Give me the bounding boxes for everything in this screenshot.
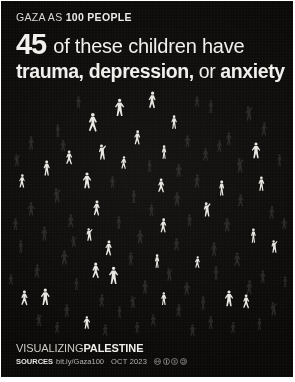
headline-conditions: trauma, depression, (16, 60, 194, 82)
pictogram-figure-highlighted (19, 289, 30, 308)
pictogram-figure-highlighted (103, 239, 114, 258)
pictogram-figure-dim (115, 305, 124, 320)
pictogram-figure-dim (192, 173, 202, 190)
pictogram-figure-dim (281, 275, 289, 289)
pictogram-figure-dim (280, 217, 288, 231)
pictogram-figure-dim (201, 147, 211, 163)
pictogram-figure-dim (53, 321, 61, 335)
pictogram-figure-dim (34, 313, 43, 328)
pictogram-figure-dim (12, 153, 21, 168)
pictogram-figure-highlighted (269, 239, 279, 255)
pictogram-figure-highlighted (91, 199, 102, 218)
pictogram-figure-highlighted (82, 315, 92, 331)
pictogram-figure-dim (114, 215, 124, 231)
pictogram-figure-highlighted (119, 155, 129, 171)
pictogram-figure-dim (206, 315, 216, 331)
pictogram-figure-highlighted (159, 291, 169, 307)
cc-nc-icon: $ (171, 358, 178, 365)
pictogram-figure-dim (11, 217, 20, 232)
pictogram-figure-highlighted (159, 144, 169, 161)
headline-line-1-text: of these children have (48, 35, 245, 57)
pictogram-figure-highlighted (241, 293, 252, 311)
headline-line-1: 45 of these children have (16, 30, 283, 60)
pictogram-figure-dim (26, 135, 36, 152)
pictogram-figure-dim (268, 301, 278, 318)
pictogram-figure-field (1, 87, 293, 333)
pictogram-figure-highlighted (250, 141, 262, 161)
pictogram-figure-highlighted (90, 261, 102, 281)
pictogram-figure-dim (126, 251, 136, 267)
pictogram-figure-dim (129, 189, 139, 205)
kicker-prefix: GAZA AS (16, 11, 66, 23)
pictogram-figure-highlighted (96, 143, 107, 162)
pictogram-figure-dim (128, 295, 137, 310)
pictogram-figure-highlighted (152, 253, 162, 270)
pictogram-figure-dim (108, 175, 117, 190)
pictogram-figure-dim (183, 134, 192, 149)
pictogram-figure-dim (66, 213, 76, 230)
pictogram-figure-dim (145, 159, 154, 174)
pictogram-figure-dim (140, 279, 150, 296)
pictogram-figure-dim (32, 263, 42, 280)
pictogram-figure-dim (258, 269, 268, 285)
infographic-poster: GAZA AS 100 PEOPLE 45 of these children … (1, 1, 293, 377)
pictogram-figure-dim (193, 95, 201, 109)
pictogram-figure-dim (243, 105, 254, 123)
kicker-bold: 100 PEOPLE (66, 11, 132, 23)
pictogram-figure-dim (188, 323, 197, 338)
pictogram-figure-dim (224, 131, 234, 147)
pictogram-figure-highlighted (146, 90, 159, 111)
sources-url[interactable]: bit.ly/Gaza100 (56, 358, 104, 366)
pictogram-figure-dim (206, 99, 216, 115)
sources-label: SOURCES (16, 358, 53, 366)
pictogram-figure-highlighted (156, 177, 167, 195)
pictogram-figure-highlighted (113, 97, 126, 119)
pictogram-figure-dim (147, 203, 156, 218)
headline-line-2: trauma, depression, or anxiety (16, 62, 283, 82)
pictogram-figure-dim (234, 157, 245, 175)
pictogram-figure-highlighted (84, 227, 94, 243)
logo-bold-text: PALESTINE (83, 342, 143, 354)
pictogram-figure-dim (172, 237, 182, 253)
pictogram-figure-dim (198, 295, 208, 312)
pictogram-figure-dim (164, 267, 174, 283)
pictogram-figure-dim (135, 229, 145, 246)
poster-footer: VISUALIZINGPALESTINE SOURCES bit.ly/Gaza… (16, 343, 187, 366)
pictogram-figure-dim (232, 251, 243, 269)
pictogram-figure-dim (185, 213, 194, 228)
pictogram-figure-dim (59, 139, 67, 153)
kicker-label: GAZA AS 100 PEOPLE (16, 12, 283, 23)
pictogram-figure-highlighted (86, 111, 100, 135)
pictogram-figure-dim (255, 317, 264, 332)
pictogram-figure-dim (236, 193, 246, 209)
pictogram-figure-highlighted (17, 173, 27, 190)
pictogram-figure-dim (26, 201, 36, 218)
pictogram-figure-dim (222, 217, 232, 234)
pictogram-figure-dim (16, 239, 26, 255)
pictogram-figure-highlighted (107, 265, 120, 287)
publication-date: OCT 2023 (111, 358, 147, 366)
pictogram-figure-dim (133, 321, 141, 335)
pictogram-figure-highlighted (132, 129, 143, 147)
cc-sa-icon (180, 358, 187, 365)
pictogram-figure-dim (149, 313, 158, 328)
pictogram-figure-highlighted (169, 114, 179, 131)
pictogram-figure-dim (172, 191, 182, 208)
pictogram-figure-dim (174, 303, 184, 319)
pictogram-figure-highlighted (201, 201, 212, 219)
pictogram-figure-dim (209, 241, 219, 258)
headline-anxiety: anxiety (220, 60, 284, 82)
stat-number: 45 (16, 28, 46, 60)
pictogram-figure-dim (69, 235, 77, 249)
pictogram-figure-dim (174, 163, 184, 179)
creative-commons-license-icons: $ (154, 358, 187, 365)
logo-light-text: VISUALIZING (16, 342, 83, 354)
poster-header: GAZA AS 100 PEOPLE 45 of these children … (16, 12, 283, 82)
pictogram-figure-dim (72, 277, 81, 292)
visualizing-palestine-logo: VISUALIZINGPALESTINE (16, 343, 187, 354)
pictogram-figure-dim (7, 273, 15, 287)
cc-icon (154, 358, 161, 365)
pictogram-figure-highlighted (158, 217, 169, 235)
svg-text:$: $ (174, 359, 177, 364)
headline-conjunction: or (194, 60, 221, 82)
